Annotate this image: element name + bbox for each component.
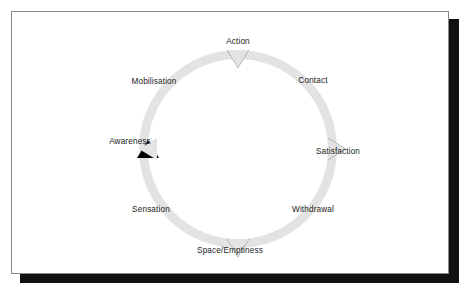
cycle-node-withdrawal: Withdrawal [292,206,334,214]
figure-root: Action Contact Satisfaction Withdrawal S… [0,0,465,291]
cycle-node-awareness: Awareness [109,138,151,146]
figure-card: Action Contact Satisfaction Withdrawal S… [11,11,449,274]
cycle-node-contact: Contact [298,77,327,85]
cycle-node-action: Action [226,38,250,46]
cycle-node-mobilisation: Mobilisation [131,78,176,86]
cycle-diagram: Action Contact Satisfaction Withdrawal S… [12,12,448,273]
cycle-ring-graphic [12,12,450,275]
cycle-node-space-emptiness: Space/Emptiness [197,247,263,255]
cycle-node-sensation: Sensation [132,206,170,214]
cycle-node-satisfaction: Satisfaction [316,148,360,156]
